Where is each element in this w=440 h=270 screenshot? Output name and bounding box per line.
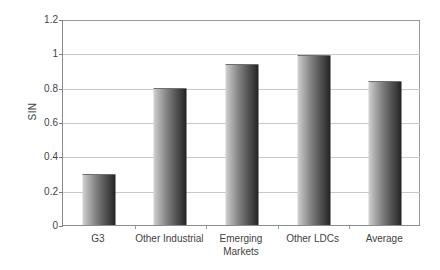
x-axis-tick-labels: G3Other IndustrialEmergingMarketsOther L… bbox=[62, 232, 420, 266]
bar[interactable] bbox=[297, 55, 330, 225]
y-axis-tick-label: 1.2 bbox=[26, 15, 58, 25]
y-axis-tick-labels: 00.20.40.60.811.2 bbox=[26, 20, 58, 226]
bar-slot bbox=[63, 20, 135, 225]
x-axis-tick-mark bbox=[278, 225, 279, 229]
y-axis-tick-mark bbox=[59, 20, 63, 21]
x-axis-tick-mark bbox=[206, 225, 207, 229]
plot-area bbox=[62, 20, 420, 226]
bars-layer bbox=[63, 20, 420, 225]
bar-chart-figure: SIN 00.20.40.60.811.2 G3Other Industrial… bbox=[0, 0, 440, 270]
y-axis-tick-label: 0.2 bbox=[26, 187, 58, 197]
bar[interactable] bbox=[154, 88, 187, 225]
bar-slot bbox=[278, 20, 350, 225]
y-axis-tick-mark bbox=[59, 123, 63, 124]
y-axis-tick-label: 0.8 bbox=[26, 84, 58, 94]
y-axis-tick-label: 0.4 bbox=[26, 152, 58, 162]
y-axis-tick-mark bbox=[59, 157, 63, 158]
x-axis-tick-label-line: Markets bbox=[197, 245, 285, 258]
y-axis-tick-label: 1 bbox=[26, 49, 58, 59]
bar[interactable] bbox=[82, 174, 115, 226]
y-axis-tick-mark bbox=[59, 54, 63, 55]
bar[interactable] bbox=[369, 81, 402, 225]
bar-slot bbox=[206, 20, 278, 225]
x-axis-tick-label: Average bbox=[340, 232, 428, 245]
x-axis-tick-mark bbox=[135, 225, 136, 229]
bar-slot bbox=[135, 20, 207, 225]
y-axis-tick-mark bbox=[59, 89, 63, 90]
bar-slot bbox=[349, 20, 421, 225]
bar[interactable] bbox=[225, 64, 258, 225]
y-axis-tick-mark bbox=[59, 192, 63, 193]
y-axis-tick-label: 0.6 bbox=[26, 118, 58, 128]
y-axis-tick-mark bbox=[59, 226, 63, 227]
y-axis-tick-label: 0 bbox=[26, 221, 58, 231]
x-axis-tick-mark bbox=[349, 225, 350, 229]
